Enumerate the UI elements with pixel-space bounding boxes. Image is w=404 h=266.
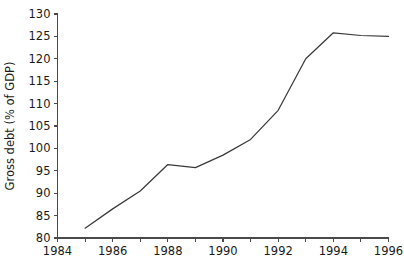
y-tick-label: 105 bbox=[29, 119, 51, 133]
x-tick-label: 1992 bbox=[264, 244, 293, 258]
chart-background bbox=[0, 0, 404, 266]
x-tick-label: 1990 bbox=[208, 244, 237, 258]
y-tick-label: 125 bbox=[29, 29, 51, 43]
y-tick-label: 95 bbox=[36, 164, 51, 178]
chart-container: 80859095100105110115120125130 1984198619… bbox=[0, 0, 404, 266]
line-chart: 80859095100105110115120125130 1984198619… bbox=[0, 0, 404, 266]
y-tick-label: 120 bbox=[29, 52, 51, 66]
x-tick-label: 1984 bbox=[43, 244, 72, 258]
y-tick-label: 110 bbox=[29, 97, 51, 111]
x-tick-label: 1994 bbox=[319, 244, 348, 258]
y-axis-title: Gross debt (% of GDP) bbox=[3, 62, 17, 191]
y-tick-label: 115 bbox=[29, 74, 51, 88]
y-tick-label: 90 bbox=[36, 186, 51, 200]
y-tick-label: 85 bbox=[36, 209, 51, 223]
x-tick-label: 1986 bbox=[98, 244, 127, 258]
x-tick-label: 1988 bbox=[153, 244, 182, 258]
x-tick-label: 1996 bbox=[374, 244, 403, 258]
y-tick-label: 100 bbox=[29, 141, 51, 155]
y-tick-label: 130 bbox=[29, 7, 51, 21]
